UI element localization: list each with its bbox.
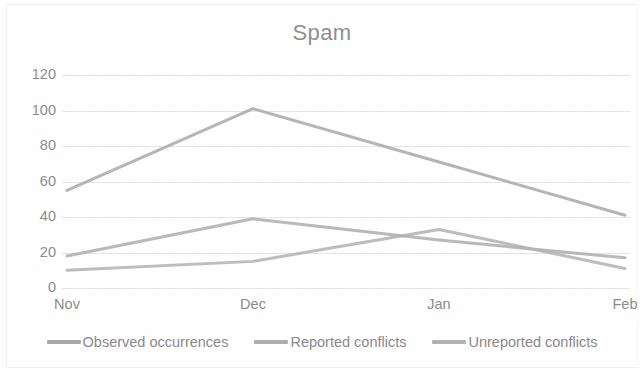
y-axis-tick-label: 80	[10, 138, 56, 153]
y-axis-tick-label: 40	[10, 209, 56, 224]
legend-item[interactable]: Unreported conflicts	[432, 334, 597, 350]
series-lines-group	[62, 75, 630, 288]
legend-item[interactable]: Observed occurrences	[47, 334, 229, 350]
series-line	[67, 229, 625, 270]
legend-item-label: Reported conflicts	[290, 334, 406, 350]
y-axis-tick-label: 100	[10, 103, 56, 118]
y-axis: 020406080100120	[6, 75, 56, 288]
legend-item-label: Unreported conflicts	[468, 334, 597, 350]
y-axis-tick-label: 0	[10, 280, 56, 295]
gridline	[62, 288, 630, 289]
legend-color-swatch	[254, 340, 288, 344]
y-axis-tick-label: 60	[10, 174, 56, 189]
chart-container: Spam 020406080100120 NovDecJanFeb Observ…	[0, 0, 644, 374]
x-axis-tick-label: Nov	[54, 296, 80, 312]
chart-title: Spam	[0, 20, 644, 46]
x-axis-tick-label: Feb	[613, 296, 638, 312]
x-axis: NovDecJanFeb	[62, 296, 630, 316]
legend-color-swatch	[47, 340, 81, 344]
y-axis-tick-label: 120	[10, 67, 56, 82]
series-line	[67, 109, 625, 216]
legend-color-swatch	[432, 340, 466, 344]
x-axis-tick-label: Dec	[240, 296, 266, 312]
legend-item-label: Observed occurrences	[83, 334, 229, 350]
y-axis-tick-label: 20	[10, 245, 56, 260]
chart-legend: Observed occurrencesReported conflictsUn…	[0, 334, 644, 350]
x-axis-tick-label: Jan	[427, 296, 450, 312]
legend-item[interactable]: Reported conflicts	[254, 334, 406, 350]
